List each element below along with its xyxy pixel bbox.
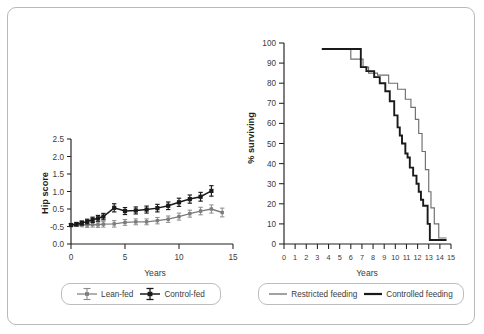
thick-line-marker-icon xyxy=(364,289,382,299)
survival-x-ticks: 0123456789101112131415 xyxy=(282,244,455,262)
survival-ytick-label: 90 xyxy=(267,59,277,68)
hip-score-ytick-label: 2.5 xyxy=(53,135,65,144)
survival-ytick-label: 80 xyxy=(267,79,277,88)
series-controlled-feeding xyxy=(322,49,447,240)
hip-score-y-ticks: 2.5 2.0 1.5 1.0 0.5 -0.5 0.0 xyxy=(50,135,71,249)
hip-score-xtick-label: 5 xyxy=(123,253,128,262)
legend-label-controlled-feeding: Controlled feeding xyxy=(386,290,452,299)
survival-ytick-label: 0 xyxy=(271,240,276,249)
survival-xtick-label: 7 xyxy=(360,253,364,262)
survival-xtick-label: 0 xyxy=(282,253,286,262)
survival-ytick-label: 60 xyxy=(267,119,277,128)
survival-ytick-label: 40 xyxy=(267,160,277,169)
hip-score-x-ticks: 0 5 10 15 xyxy=(69,244,238,262)
survival-xtick-label: 1 xyxy=(293,253,297,262)
figure-frame: Hip score 2.5 2.0 1.5 1.0 0.5 -0.5 0.0 xyxy=(7,7,475,325)
survival-ytick-label: 10 xyxy=(267,220,277,229)
survival-xtick-label: 5 xyxy=(338,253,342,262)
survival-x-axis-title: Years xyxy=(356,268,378,278)
survival-xtick-label: 13 xyxy=(425,253,433,262)
survival-xtick-label: 12 xyxy=(414,253,422,262)
survival-ytick-label: 70 xyxy=(267,99,277,108)
hip-score-xtick-label: 10 xyxy=(174,253,184,262)
survival-y-ticks: 0102030405060708090100 xyxy=(262,39,284,249)
hip-score-legend: Lean-fed Control-fed xyxy=(61,283,221,305)
hip-score-ytick-label: 0.5 xyxy=(53,205,65,214)
survival-ytick-label: 20 xyxy=(267,200,277,209)
legend-item-restricted-feeding: Restricted feeding xyxy=(269,289,357,299)
survival-y-axis-title: % surviving xyxy=(246,112,256,164)
survival-xtick-label: 11 xyxy=(403,253,411,262)
survival-xtick-label: 8 xyxy=(371,253,375,262)
hip-score-ytick-label: -0.5 xyxy=(50,223,65,232)
legend-label-lean-fed: Lean-fed xyxy=(101,290,133,299)
errorbar-marker-icon xyxy=(77,287,97,301)
hip-score-ytick-label: 0.0 xyxy=(53,240,65,249)
hip-score-chart: Hip score 2.5 2.0 1.5 1.0 0.5 -0.5 0.0 xyxy=(8,8,246,326)
survival-ytick-label: 100 xyxy=(262,39,276,48)
errorbar-marker-icon xyxy=(140,287,160,301)
survival-xtick-label: 14 xyxy=(436,253,444,262)
legend-item-control-fed: Control-fed xyxy=(140,287,205,301)
hip-score-x-axis-title: Years xyxy=(144,268,166,278)
hip-score-ytick-label: 1.5 xyxy=(53,170,65,179)
survival-xtick-label: 15 xyxy=(447,253,455,262)
survival-xtick-label: 2 xyxy=(304,253,308,262)
legend-item-controlled-feeding: Controlled feeding xyxy=(364,289,452,299)
legend-item-lean-fed: Lean-fed xyxy=(77,287,133,301)
survival-xtick-label: 10 xyxy=(391,253,399,262)
hip-score-xtick-label: 15 xyxy=(228,253,238,262)
hip-score-y-axis-title: Hip score xyxy=(40,172,50,214)
legend-label-control-fed: Control-fed xyxy=(164,290,205,299)
series-control-fed xyxy=(69,186,214,227)
survival-ytick-label: 30 xyxy=(267,180,277,189)
survival-legend: Restricted feeding Controlled feeding xyxy=(258,283,464,305)
hip-score-xtick-label: 0 xyxy=(69,253,74,262)
survival-xtick-label: 4 xyxy=(327,253,331,262)
hip-score-ytick-label: 1.0 xyxy=(53,188,65,197)
hip-score-panel: Hip score 2.5 2.0 1.5 1.0 0.5 -0.5 0.0 xyxy=(8,8,246,326)
legend-label-restricted-feeding: Restricted feeding xyxy=(291,290,357,299)
survival-chart: % surviving 0102030405060708090100 01234… xyxy=(246,8,474,326)
survival-xtick-label: 3 xyxy=(315,253,319,262)
survival-xtick-label: 6 xyxy=(349,253,353,262)
survival-panel: % surviving 0102030405060708090100 01234… xyxy=(246,8,474,326)
thin-line-marker-icon xyxy=(269,289,287,299)
hip-score-ytick-label: 2.0 xyxy=(53,153,65,162)
survival-xtick-label: 9 xyxy=(382,253,386,262)
survival-ytick-label: 50 xyxy=(267,140,277,149)
